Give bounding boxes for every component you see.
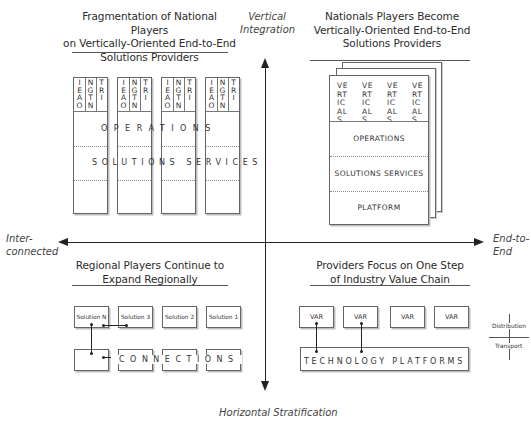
vertical-letters: T R I xyxy=(184,79,195,102)
connector-dot xyxy=(315,322,318,325)
axis-label-left-line1: Inter- xyxy=(6,232,58,245)
layer-platform: PLATFORM xyxy=(330,191,428,224)
axis-label-left-line2: connected xyxy=(6,245,58,258)
dotted-divider xyxy=(162,146,195,147)
vertical-letters: N G T N xyxy=(173,79,184,109)
title-rule xyxy=(72,52,228,53)
layer-label: OPERATIONS xyxy=(353,134,405,143)
connector-dot xyxy=(360,350,363,353)
vertical-letters: N G T N xyxy=(129,79,140,109)
vertical-letters: N G T N xyxy=(217,79,228,109)
quadrant-title: Fragmentation of National Players on Ver… xyxy=(62,10,237,64)
title-line: Vertically-Oriented End-to-End xyxy=(312,24,472,38)
var-box: VAR xyxy=(434,306,469,328)
quadrant-title: Providers Focus on One Step of Industry … xyxy=(310,259,470,286)
verticals-label: VE RT IC AL S xyxy=(387,82,407,125)
letter: O xyxy=(162,102,173,110)
dotted-divider xyxy=(206,180,239,181)
connections-label: CONNECTIONS xyxy=(116,355,242,364)
axis-label-right-line2: End xyxy=(493,245,529,258)
axis-label-left: Inter- connected xyxy=(6,232,58,258)
integration-column: I E A O N G T N T R I xyxy=(205,77,240,214)
arrow-right-icon xyxy=(474,238,484,246)
title-rule xyxy=(310,60,470,61)
connector-line xyxy=(103,325,126,326)
title-rule xyxy=(72,285,228,286)
dotted-divider xyxy=(74,146,107,147)
letter: I xyxy=(140,94,151,102)
axis-label-top: Vertical Integration xyxy=(240,10,294,36)
title-line: of Industry Value Chain xyxy=(310,273,470,287)
layer-solutions-services: SOLUTIONS SERVICES xyxy=(330,156,428,191)
layer-label: SOLUTIONS SERVICES xyxy=(335,169,424,178)
arrow-left-icon xyxy=(58,238,68,246)
dotted-divider xyxy=(118,180,151,181)
connector-line xyxy=(91,324,92,354)
title-line: Nationals Players Become xyxy=(312,10,472,24)
title-line: Providers Focus on One Step xyxy=(310,259,470,273)
vertical-letters: T R I xyxy=(140,79,151,102)
letter: I xyxy=(228,94,239,102)
solution-box: Solution 1 xyxy=(206,306,241,328)
axis-label-top-line1: Vertical xyxy=(240,10,294,23)
quadrant-title: Regional Players Continue to Expand Regi… xyxy=(72,259,228,286)
connector-dot xyxy=(102,356,105,359)
vertical-letters: T R I xyxy=(228,79,239,102)
axis-label-top-line2: Integration xyxy=(240,23,294,36)
connector-line xyxy=(361,324,362,352)
band-operations-label: OPERATIONS xyxy=(101,124,217,133)
integration-column: I E A O N G T N T R I xyxy=(117,77,152,214)
vertical-axis-line xyxy=(265,65,266,381)
connector-dot xyxy=(125,324,128,327)
letter: I xyxy=(96,94,107,102)
title-line: on Vertically-Oriented End-to-End xyxy=(62,37,237,51)
connector-dot xyxy=(315,350,318,353)
connector-dot xyxy=(90,323,93,326)
connector-line xyxy=(316,324,317,352)
vertical-letters: I E A O xyxy=(206,79,217,109)
dotted-divider xyxy=(118,146,151,147)
title-rule xyxy=(310,285,470,286)
integration-column: I E A O N G T N T R I xyxy=(161,77,196,214)
verticals-label: VE RT IC AL S xyxy=(412,82,432,125)
verticals-label: VE RT IC AL S xyxy=(337,82,357,125)
verticals-label: VE RT IC AL S xyxy=(362,82,382,125)
title-line: Regional Players Continue to xyxy=(72,259,228,273)
letter: N xyxy=(129,102,140,110)
technology-platforms-label: TECHNOLOGY PLATFORMS xyxy=(304,357,465,366)
band-solutions-label: SOLUTIONS SERVICES xyxy=(92,158,262,167)
dotted-divider xyxy=(74,180,107,181)
integration-column: I E A O N G T N T R I xyxy=(73,77,108,214)
title-line: Expand Regionally xyxy=(72,273,228,287)
connector-dot xyxy=(360,322,363,325)
technology-platforms-box: TECHNOLOGY PLATFORMS xyxy=(300,347,469,371)
arrow-down-icon xyxy=(261,381,269,391)
arrow-up-icon xyxy=(261,58,269,68)
stacked-page-front: VE RT IC AL S VE RT IC AL S VE RT IC AL … xyxy=(329,75,429,225)
var-box: VAR xyxy=(390,306,425,328)
vertical-letters: I E A O xyxy=(118,79,129,109)
dotted-divider xyxy=(162,180,195,181)
horizontal-axis-line xyxy=(66,242,474,243)
title-line: Fragmentation of National Players xyxy=(62,10,237,37)
vertical-letters: I E A O xyxy=(74,79,85,109)
layer-label: PLATFORM xyxy=(357,203,400,212)
letter: N xyxy=(85,102,96,110)
connector-dot xyxy=(90,352,93,355)
letter: I xyxy=(184,94,195,102)
axis-label-bottom: Horizontal Stratification xyxy=(219,406,338,419)
letter: N xyxy=(173,102,184,110)
letter: O xyxy=(74,102,85,110)
dotted-divider xyxy=(206,146,239,147)
title-line: Solutions Providers xyxy=(312,37,472,51)
axis-label-right-line1: End-to- xyxy=(493,232,529,245)
axis-label-right: End-to- End xyxy=(493,232,529,258)
legend-distribution: Distribution xyxy=(492,323,526,329)
letter: N xyxy=(217,102,228,110)
legend-transport: Transport xyxy=(495,343,522,349)
vertical-letters: T R I xyxy=(96,79,107,102)
letter: O xyxy=(118,102,129,110)
layer-operations: OPERATIONS xyxy=(330,121,428,156)
connector-dot xyxy=(102,324,105,327)
solution-box: Solution 2 xyxy=(162,306,197,328)
